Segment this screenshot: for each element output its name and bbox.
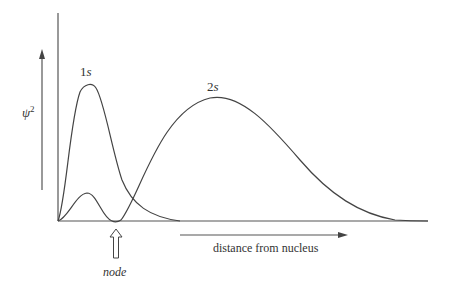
y-axis-label: ψ2 xyxy=(22,104,35,121)
x-arrowhead-icon xyxy=(338,232,348,238)
curve-2s xyxy=(58,97,428,221)
label-1s: 1s xyxy=(80,64,92,80)
node-label: node xyxy=(103,265,126,280)
y-axis-label-base: ψ xyxy=(22,105,30,120)
node-arrow-icon xyxy=(110,229,122,258)
label-2s-letter: s xyxy=(214,79,219,94)
label-1s-letter: s xyxy=(87,64,92,79)
label-2s: 2s xyxy=(207,79,219,95)
y-axis-label-sup: 2 xyxy=(30,104,35,114)
x-axis-label: distance from nucleus xyxy=(213,241,318,256)
y-arrowhead-icon xyxy=(39,49,45,59)
